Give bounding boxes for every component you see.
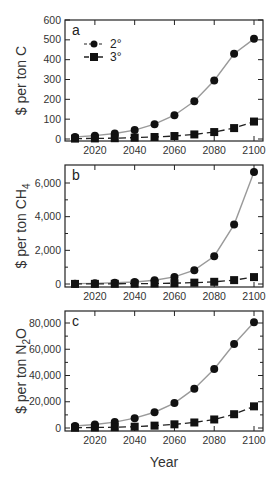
y-tick-label: 80,000 [29,317,61,329]
marker-square [131,423,139,431]
marker-square [131,280,139,288]
x-tick-label: 2020 [83,434,107,446]
x-tick-label: 2060 [163,290,187,302]
marker-circle [230,340,238,348]
legend: 2°3° [84,37,122,64]
marker-square [71,424,79,432]
panel-b: 2020204020602080210002,0004,0006,000$ pe… [13,165,266,302]
marker-circle [131,414,139,422]
y-tick-label: 4,000 [35,210,61,222]
y-tick-label: 0 [55,278,61,290]
marker-square [250,118,258,126]
marker-square [250,273,258,281]
marker-square [170,420,178,428]
marker-circle [210,365,218,373]
x-tick-label: 2100 [242,290,266,302]
x-axis-label: Year [150,454,179,470]
y-tick-label: 20,000 [29,395,61,407]
marker-square [210,128,218,136]
marker-square [210,415,218,423]
legend-label-3deg: 3° [110,50,122,64]
marker-square [190,130,198,138]
marker-circle [190,97,198,105]
marker-square [210,278,218,286]
marker-square [230,124,238,132]
x-tick-label: 2080 [203,434,227,446]
marker-circle [210,252,218,260]
plot-frame [65,20,263,141]
marker-circle [151,408,159,416]
y-tick-label: 60,000 [29,343,61,355]
marker-square [111,134,119,142]
x-tick-label: 2060 [163,434,187,446]
marker-square [71,135,79,143]
marker-circle [170,111,178,119]
x-tick-label: 2100 [242,144,266,156]
legend-label-2deg: 2° [110,37,122,51]
marker-square [170,132,178,140]
y-tick-label: 6,000 [35,177,61,189]
marker-circle [131,126,139,134]
x-tick-label: 2040 [123,290,147,302]
marker-circle [210,76,218,84]
marker-circle [250,318,258,326]
x-tick-label: 2060 [163,144,187,156]
y-tick-label: 600 [43,14,61,26]
x-tick-label: 2080 [203,290,227,302]
marker-square [111,423,119,431]
series-3deg-line [75,406,254,427]
panel-a: 202020402060208021000100200300400500600$… [13,14,266,157]
marker-circle [190,385,198,393]
marker-square [111,280,119,288]
marker-square [71,280,79,288]
marker-square [230,410,238,418]
marker-circle [230,50,238,58]
marker-square [190,418,198,426]
figure: 202020402060208021000100200300400500600$… [0,0,280,480]
x-tick-label: 2040 [123,144,147,156]
marker-square [91,134,99,142]
y-tick-label: 400 [43,53,61,65]
marker-circle [250,35,258,43]
panel-letter: c [72,313,79,329]
y-tick-label: 0 [55,133,61,145]
marker-square [151,133,159,141]
series-2deg-line [75,172,254,284]
marker-square [230,276,238,284]
marker-circle [170,399,178,407]
marker-circle [230,221,238,229]
y-tick-label: 500 [43,33,61,45]
marker-circle [190,266,198,274]
x-tick-label: 2100 [242,434,266,446]
panel-c: 20202040206020802100020,00040,00060,0008… [13,311,266,446]
y-tick-label: 2,000 [35,244,61,256]
marker-circle [151,120,159,128]
x-tick-label: 2020 [83,144,107,156]
y-tick-label: 100 [43,113,61,125]
panel-letter: b [72,167,80,183]
marker-square [250,402,258,410]
marker-square [151,422,159,430]
y-tick-label: 40,000 [29,369,61,381]
series-3deg-line [75,122,254,139]
marker-square [131,134,139,142]
x-tick-label: 2020 [83,290,107,302]
series-2deg-line [75,322,254,426]
y-axis-label: $ per ton C [13,46,29,115]
marker-circle [250,168,258,176]
marker-square [170,279,178,287]
y-tick-label: 200 [43,93,61,105]
marker-square [91,423,99,431]
y-axis-label: $ per ton CH4 [13,183,32,268]
marker-square [91,280,99,288]
x-tick-label: 2080 [203,144,227,156]
y-tick-label: 300 [43,73,61,85]
x-tick-label: 2040 [123,434,147,446]
marker-square [151,279,159,287]
panel-letter: a [72,22,80,38]
y-tick-label: 0 [55,422,61,434]
marker-square [190,279,198,287]
series-2deg-line [75,39,254,137]
